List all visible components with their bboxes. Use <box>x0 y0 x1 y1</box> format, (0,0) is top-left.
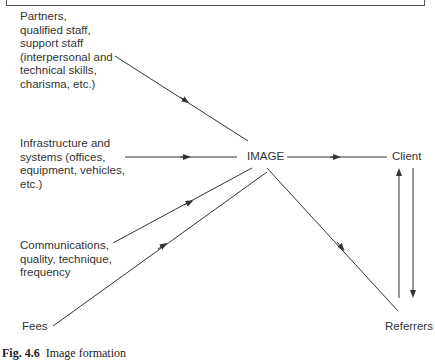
figure-title: Image formation <box>46 346 126 360</box>
figure-caption: Fig. 4.6 Image formation <box>2 346 126 361</box>
edge-communications-to-image <box>113 168 252 243</box>
figure-number: Fig. 4.6 <box>2 346 40 360</box>
arrow-icon <box>180 97 186 101</box>
output-referrers-label: Referrers <box>385 320 433 332</box>
input-fees-label: Fees <box>22 320 48 334</box>
edge-image-to-referrers <box>267 168 398 311</box>
central-node-image: IMAGE <box>247 150 284 162</box>
input-infrastructure-label: Infrastructure and systems (offices, equ… <box>20 137 125 191</box>
input-communications-label: Communications, quality, technique, freq… <box>20 239 112 280</box>
output-client-label: Client <box>392 150 421 162</box>
input-people-label: Partners, qualified staff, support staff… <box>20 10 113 91</box>
arrow-icon <box>184 202 190 205</box>
